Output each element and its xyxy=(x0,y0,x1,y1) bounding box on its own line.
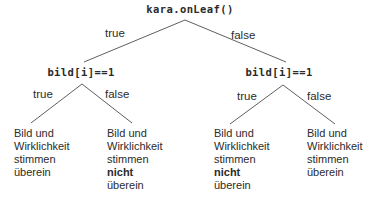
leaf-line: Wirklichkeit xyxy=(214,140,270,153)
leaf-line: Wirklichkeit xyxy=(107,140,163,153)
leaf-line: stimmen xyxy=(307,153,363,166)
left-branch-false-label: false xyxy=(105,88,129,100)
leaf-line: Bild und xyxy=(14,127,70,140)
leaf-line: stimmen xyxy=(214,153,270,166)
leaf-line: überein xyxy=(214,179,270,192)
root-branch-false-label: false xyxy=(231,29,255,41)
leaf-false-true: Bild und Wirklichkeit stimmen nicht über… xyxy=(214,127,270,192)
leaf-line: stimmen xyxy=(107,153,163,166)
leaf-line-bold: nicht xyxy=(107,166,163,179)
leaf-line: Wirklichkeit xyxy=(307,140,363,153)
leaf-line: Bild und xyxy=(214,127,270,140)
left-branch-true-label: true xyxy=(33,88,53,100)
leaf-line: stimmen xyxy=(14,153,70,166)
leaf-line: überein xyxy=(14,166,70,179)
root-branch-true-label: true xyxy=(105,27,125,39)
edge-root-true xyxy=(84,20,185,62)
root-node-label: kara.onLeaf() xyxy=(146,3,233,15)
left-condition-label: bild[i]==1 xyxy=(47,66,114,78)
right-branch-false-label: false xyxy=(307,90,331,102)
right-condition-label: bild[i]==1 xyxy=(245,66,312,78)
leaf-line: Bild und xyxy=(107,127,163,140)
leaf-line: Bild und xyxy=(307,127,363,140)
leaf-line: Wirklichkeit xyxy=(14,140,70,153)
leaf-true-false: Bild und Wirklichkeit stimmen nicht über… xyxy=(107,127,163,192)
leaf-true-true: Bild und Wirklichkeit stimmen überein xyxy=(14,127,70,179)
leaf-line: überein xyxy=(307,166,363,179)
decision-tree-diagram: kara.onLeaf() true false bild[i]==1 bild… xyxy=(0,0,384,201)
right-branch-true-label: true xyxy=(237,90,257,102)
leaf-false-false: Bild und Wirklichkeit stimmen überein xyxy=(307,127,363,179)
edge-root-false xyxy=(185,20,286,62)
leaf-line: überein xyxy=(107,179,163,192)
leaf-line-bold: nicht xyxy=(214,166,270,179)
